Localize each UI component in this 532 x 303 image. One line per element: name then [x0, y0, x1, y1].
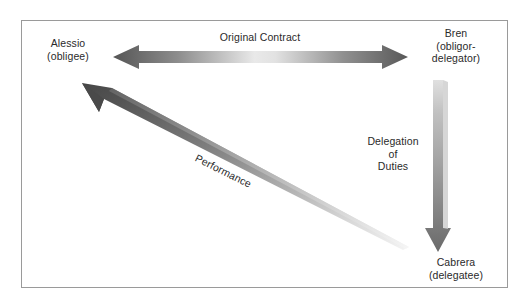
arrow-label-original-contract: Original Contract: [180, 31, 340, 44]
node-name-alessio: Alessio: [51, 37, 86, 49]
node-role-bren-line2: delegator): [432, 52, 480, 64]
node-role-bren-line1: (obligor-: [436, 40, 475, 52]
delegation-line1: Delegation: [367, 135, 418, 147]
node-role-cabrera: (delegatee): [429, 269, 483, 281]
node-role-alessio: (obligee): [47, 50, 89, 62]
node-name-cabrera: Cabrera: [437, 256, 476, 268]
node-name-bren: Bren: [445, 27, 468, 39]
delegation-line3: Duties: [378, 160, 408, 172]
delegation-line2: of: [389, 148, 398, 160]
node-label-cabrera: Cabrera (delegatee): [404, 256, 508, 281]
node-label-alessio: Alessio (obligee): [22, 37, 114, 62]
arrow-label-delegation-of-duties: Delegation of Duties: [356, 135, 430, 173]
node-label-bren: Bren (obligor- delegator): [408, 27, 504, 65]
arrow-original-contract: [113, 45, 408, 69]
diagram-figure: Alessio (obligee) Bren (obligor- delegat…: [0, 0, 532, 303]
